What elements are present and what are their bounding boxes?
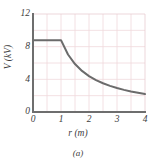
x-tick-0: 0 [25, 115, 41, 125]
x-axis-title: r (m) [0, 128, 156, 138]
y-axis-title: V (kV) [3, 33, 13, 81]
figure-caption: (a) [0, 148, 156, 158]
figure-panel: 12 8 4 0 0 1 2 3 4 V (kV) r (m) (a) [0, 0, 156, 166]
x-tick-labels: 0 1 2 3 4 [0, 115, 156, 129]
x-tick-2: 2 [81, 115, 97, 125]
y-tick-12: 12 [6, 9, 30, 19]
x-tick-4: 4 [137, 115, 153, 125]
x-axis-line [32, 111, 146, 113]
y-axis-line [32, 13, 34, 113]
y-tick-labels: 12 8 4 0 [2, 0, 30, 166]
x-tick-1: 1 [53, 115, 69, 125]
plot-area [33, 14, 145, 112]
voltage-curve [33, 14, 145, 112]
x-tick-3: 3 [109, 115, 125, 125]
curve-polyline [33, 40, 145, 94]
